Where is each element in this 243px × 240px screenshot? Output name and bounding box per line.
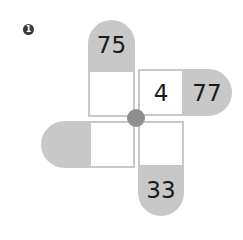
bottom-inner-box[interactable]: [138, 121, 184, 167]
bottom-outer-value: 33: [138, 167, 184, 213]
top-outer-value: 75: [88, 22, 135, 68]
right-inner-box[interactable]: 4: [138, 69, 184, 116]
left-inner-box[interactable]: [89, 121, 135, 168]
problem-number-badge: 1: [23, 24, 34, 35]
right-outer-value: 77: [184, 69, 230, 116]
top-inner-box[interactable]: [88, 70, 135, 117]
center-dot: [127, 109, 145, 127]
left-outer-value[interactable]: [42, 121, 89, 168]
